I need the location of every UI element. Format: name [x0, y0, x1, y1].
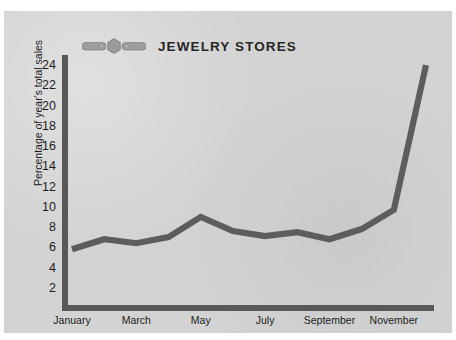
y-axis-label: Percentage of year's total sales — [32, 33, 44, 193]
x-tick-label: September — [304, 314, 355, 326]
ring-icon — [82, 38, 146, 54]
y-tick-label: 8 — [10, 221, 56, 233]
y-tick-label: 4 — [10, 262, 56, 274]
y-axis-tick-labels: 24681012141618202224 — [4, 55, 56, 311]
x-tick-label: July — [256, 314, 275, 326]
x-tick-label: March — [122, 314, 151, 326]
series-line — [62, 55, 434, 311]
y-tick-label: 10 — [10, 201, 56, 213]
x-tick-label: January — [53, 314, 90, 326]
chart-panel: JEWELRY STORES 24681012141618202224 Perc… — [4, 11, 452, 333]
y-tick-label: 6 — [10, 241, 56, 253]
page-title: JEWELRY STORES — [158, 39, 297, 54]
x-tick-label: May — [191, 314, 211, 326]
x-axis-tick-labels: JanuaryMarchMayJulySeptemberNovember — [62, 314, 434, 332]
plot-area — [62, 55, 434, 311]
chart-page: JEWELRY STORES 24681012141618202224 Perc… — [0, 0, 456, 340]
y-tick-label: 2 — [10, 282, 56, 294]
x-tick-label: November — [370, 314, 418, 326]
chart-header: JEWELRY STORES — [82, 35, 297, 57]
